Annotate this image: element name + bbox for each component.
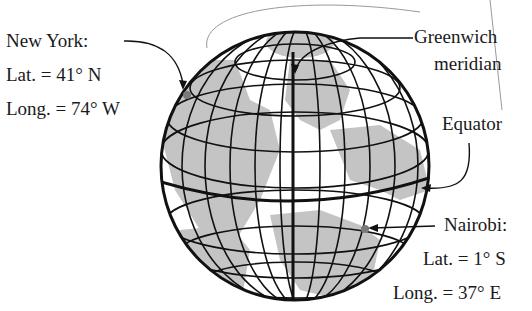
nairobi-dot bbox=[361, 225, 369, 233]
nairobi-name: Nairobi: bbox=[444, 214, 507, 236]
new-york-long: Long. = 74° W bbox=[6, 98, 120, 120]
equator-arrow bbox=[425, 143, 469, 188]
nairobi-long: Long. = 37° E bbox=[393, 282, 501, 304]
greenwich-label-line2: meridian bbox=[434, 53, 502, 75]
new-york-arrow bbox=[124, 41, 183, 84]
greenwich-label-line1: Greenwich bbox=[414, 26, 497, 48]
new-york-name: New York: bbox=[6, 30, 88, 52]
nairobi-lat: Lat. = 1° S bbox=[423, 248, 506, 270]
equator-label: Equator bbox=[442, 113, 502, 135]
new-york-lat: Lat. = 41° N bbox=[6, 64, 101, 86]
new-york-dot bbox=[183, 91, 191, 99]
